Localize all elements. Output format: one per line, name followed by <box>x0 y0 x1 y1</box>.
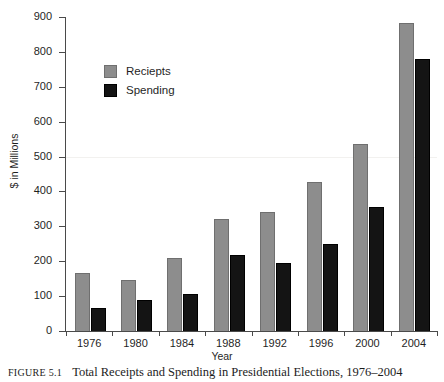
bar-spending-1980 <box>137 300 152 331</box>
figure-container: 0100200300400500600700800900 $ in Millio… <box>0 0 444 382</box>
x-tick-1996 <box>298 331 299 336</box>
bar-receipts-2004 <box>399 23 414 331</box>
x-tick-1984 <box>159 331 160 336</box>
x-tick-1976 <box>66 331 67 336</box>
bar-receipts-2000 <box>353 144 368 331</box>
x-axis-title: Year <box>0 350 444 362</box>
x-tick-2000 <box>344 331 345 336</box>
legend-item-spending: Spending <box>104 81 175 100</box>
bar-spending-1988 <box>230 255 245 331</box>
bar-spending-1976 <box>91 308 106 331</box>
bar-receipts-1980 <box>121 280 136 331</box>
figure-caption-text: Total Receipts and Spending in President… <box>72 365 402 379</box>
y-tick-0 <box>59 331 65 332</box>
x-tick-2004 <box>391 331 392 336</box>
bar-spending-2000 <box>369 207 384 331</box>
bar-spending-1996 <box>323 244 338 331</box>
figure-caption: Figure 5.1Total Receipts and Spending in… <box>8 365 444 380</box>
bar-spending-2004 <box>415 59 430 331</box>
bars-layer <box>0 0 444 331</box>
chart-plot-area: 0100200300400500600700800900 $ in Millio… <box>0 0 444 345</box>
x-tick-end <box>437 331 438 336</box>
legend-label-spending: Spending <box>126 84 175 97</box>
legend-swatch-spending <box>104 84 117 97</box>
x-tick-1992 <box>252 331 253 336</box>
bar-receipts-1996 <box>307 182 322 331</box>
bar-receipts-1988 <box>214 219 229 331</box>
legend-item-receipts: Reciepts <box>104 62 175 81</box>
x-axis-line <box>65 331 437 332</box>
bar-spending-1984 <box>183 294 198 331</box>
bar-receipts-1984 <box>167 258 182 331</box>
chart-legend: Reciepts Spending <box>104 62 175 100</box>
bar-spending-1992 <box>276 263 291 331</box>
x-tick-1980 <box>112 331 113 336</box>
legend-swatch-receipts <box>104 65 117 78</box>
legend-label-receipts: Reciepts <box>126 65 171 78</box>
figure-caption-label: Figure 5.1 <box>8 367 62 378</box>
bar-receipts-1976 <box>75 273 90 331</box>
bar-receipts-1992 <box>260 212 275 331</box>
x-tick-label-2004: 2004 <box>384 337 444 349</box>
x-tick-1988 <box>205 331 206 336</box>
